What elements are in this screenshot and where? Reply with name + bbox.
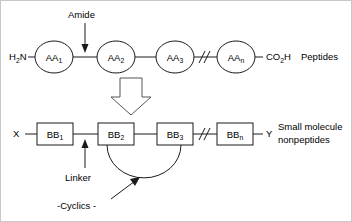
amide-annotation-label: Amide (68, 9, 95, 20)
cyclics-pointer-arrow (111, 177, 140, 199)
left-terminus-label: X (13, 128, 20, 139)
node-bb3-label: BB3 (167, 129, 184, 142)
node-aa3-label: AA3 (167, 52, 184, 65)
amide-pointer-arrow (82, 23, 89, 53)
linker-annotation-label: Linker (65, 172, 91, 183)
linker-pointer-arrow (82, 139, 89, 168)
peptides-caption: Peptides (301, 51, 338, 62)
node-aa2-label: AA2 (108, 52, 125, 65)
node-bb1-label: BB1 (47, 129, 64, 142)
diagram-canvas: H2N AA1 AA2 AA3 AAn CO2H Amide (0, 0, 352, 222)
n-terminus-label: H2N (9, 51, 27, 64)
cyclic-arc (107, 145, 181, 178)
nonpeptides-caption-line1: Small molecule (278, 121, 342, 132)
nonpeptides-caption-line2: nonpeptides (278, 134, 330, 145)
node-bb2-label: BB2 (108, 129, 125, 142)
node-aan-label: AAn (228, 52, 245, 65)
right-terminus-label: Y (266, 128, 273, 139)
node-bbn-label: BBn (227, 129, 244, 142)
cyclics-annotation-label: -Cyclics - (57, 200, 96, 211)
diagram-svg: H2N AA1 AA2 AA3 AAn CO2H Amide (1, 1, 352, 222)
c-terminus-label: CO2H (266, 51, 291, 64)
node-aa1-label: AA1 (46, 52, 63, 65)
down-block-arrow-icon (111, 78, 151, 115)
